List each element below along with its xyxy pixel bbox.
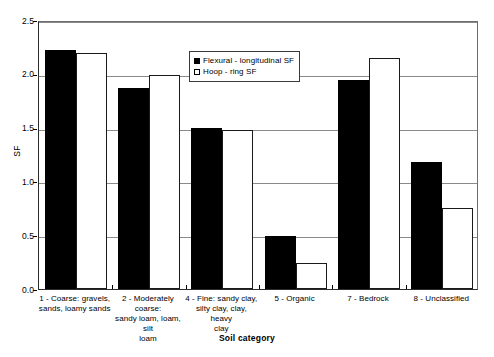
x-axis-tick-mark (259, 285, 260, 289)
x-axis-category-label-3: 4 - Fine: sandy clay,silty clay, clay, h… (185, 294, 258, 334)
y-axis-tick-mark (33, 21, 37, 22)
plot-area: Flexural - longitudinal SF Hoop - ring S… (38, 21, 478, 290)
y-axis-tick-label: 0.0 (10, 286, 34, 295)
bar-flexural-4 (265, 236, 296, 289)
x-axis-category-label-4: 5 - Organic (258, 294, 331, 304)
bar-flexural-1 (45, 50, 76, 289)
y-axis-tick-label: 2.0 (10, 70, 34, 79)
y-axis-tick-mark (33, 182, 37, 183)
y-axis-tick-label: 2.5 (10, 17, 34, 26)
legend-item-hoop: Hoop - ring SF (194, 66, 294, 77)
x-axis-category-label-6: 8 - Unclassified (405, 294, 478, 304)
y-axis-tick-mark (33, 236, 37, 237)
x-axis-tick-mark (186, 285, 187, 289)
bar-hoop-1 (76, 53, 107, 289)
bar-hoop-2 (149, 75, 180, 289)
x-axis-tick-mark (332, 285, 333, 289)
x-axis-tick-mark (406, 285, 407, 289)
legend-label-hoop: Hoop - ring SF (203, 66, 256, 77)
x-axis-category-label-1: 1 - Coarse: gravels,sands, loamy sands (38, 294, 111, 314)
x-axis-category-label-5: 7 - Bedrock (331, 294, 404, 304)
y-axis-tick-mark (33, 290, 37, 291)
bar-hoop-6 (442, 208, 473, 289)
y-axis-tick-mark (33, 129, 37, 130)
bar-chart: SF 0.00.51.01.52.02.5 Flexural - longitu… (0, 0, 494, 357)
x-axis-tick-mark (112, 285, 113, 289)
chart-legend: Flexural - longitudinal SF Hoop - ring S… (189, 51, 300, 82)
legend-label-flexural: Flexural - longitudinal SF (203, 55, 294, 66)
bar-hoop-4 (296, 263, 327, 289)
y-axis-tick-label: 1.0 (10, 178, 34, 187)
bar-hoop-5 (369, 58, 400, 289)
bar-flexural-5 (338, 80, 369, 289)
bar-flexural-3 (191, 128, 222, 289)
y-axis-tick-label: 0.5 (10, 232, 34, 241)
bar-flexural-6 (411, 162, 442, 289)
legend-item-flexural: Flexural - longitudinal SF (194, 55, 294, 66)
y-axis-tick-label: 1.5 (10, 124, 34, 133)
hollow-square-icon (194, 69, 200, 75)
filled-square-icon (194, 58, 200, 64)
bar-hoop-3 (222, 130, 253, 289)
x-axis-category-labels: 1 - Coarse: gravels,sands, loamy sands2 … (38, 294, 478, 330)
y-axis-tick-mark (33, 75, 37, 76)
y-axis-tick-labels: 0.00.51.01.52.02.5 (8, 0, 34, 357)
x-axis-title: Soil category (0, 333, 494, 343)
bar-flexural-2 (118, 88, 149, 289)
